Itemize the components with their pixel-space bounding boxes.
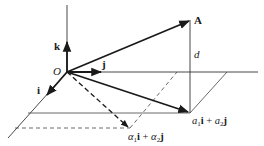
- projection-arrow: [67, 72, 188, 112]
- vector-diagram: k O j i A d a1i + a2j α1i + α2j: [0, 0, 264, 146]
- label-i: i: [37, 84, 40, 96]
- label-d: d: [194, 48, 200, 60]
- label-k: k: [54, 40, 61, 52]
- label-j: j: [101, 58, 106, 70]
- label-origin: O: [53, 65, 61, 77]
- label-alt-projection: α1i + α2j: [128, 131, 164, 144]
- label-projection: a1i + a2j: [192, 115, 227, 128]
- label-A: A: [194, 14, 202, 26]
- alt-projection-arrow: [67, 72, 128, 127]
- vector-A-arrow: [67, 21, 189, 72]
- plane-right-edge: [190, 72, 227, 113]
